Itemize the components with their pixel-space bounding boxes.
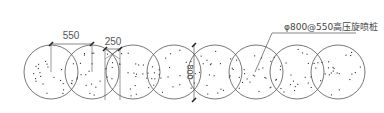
- concrete-speckle: [33, 49, 361, 97]
- pile-layout-diagram: 550250800 φ800@550高压旋喷桩: [0, 0, 384, 113]
- dimension-lines: 550250800: [49, 30, 196, 102]
- dimension-label: 250: [105, 36, 122, 47]
- leader-line: [255, 33, 356, 72]
- pile-spec-label: φ800@550高压旋喷桩: [284, 21, 378, 32]
- dimension-label: 550: [63, 30, 80, 41]
- dimension-label: 800: [185, 64, 195, 79]
- pile-circle: [229, 45, 283, 99]
- pile-circle: [270, 45, 324, 99]
- pile-circle: [188, 45, 242, 99]
- callout-leader: φ800@550高压旋喷桩: [255, 21, 378, 72]
- pile-circle: [311, 45, 365, 99]
